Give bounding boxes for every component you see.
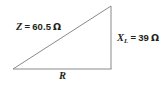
vertical-leg-value: 39 bbox=[138, 32, 149, 43]
hypotenuse-label: Z=60.5Ω bbox=[16, 22, 61, 33]
hypotenuse-equals: = bbox=[25, 21, 31, 32]
hypotenuse-line bbox=[13, 6, 111, 69]
hypotenuse-symbol: Z bbox=[16, 21, 23, 32]
vertical-leg-unit: Ω bbox=[151, 32, 159, 43]
hypotenuse-unit: Ω bbox=[53, 21, 61, 32]
horizontal-leg-label: R bbox=[59, 71, 66, 82]
impedance-triangle-figure: Z=60.5Ω XL=39Ω R bbox=[0, 0, 168, 90]
vertical-leg-label: XL=39Ω bbox=[117, 33, 159, 45]
triangle-shape bbox=[0, 0, 168, 90]
hypotenuse-value: 60.5 bbox=[32, 21, 51, 32]
vertical-leg-equals: = bbox=[131, 32, 137, 43]
horizontal-leg-symbol: R bbox=[59, 70, 66, 81]
vertical-leg-subscript: L bbox=[124, 37, 128, 45]
